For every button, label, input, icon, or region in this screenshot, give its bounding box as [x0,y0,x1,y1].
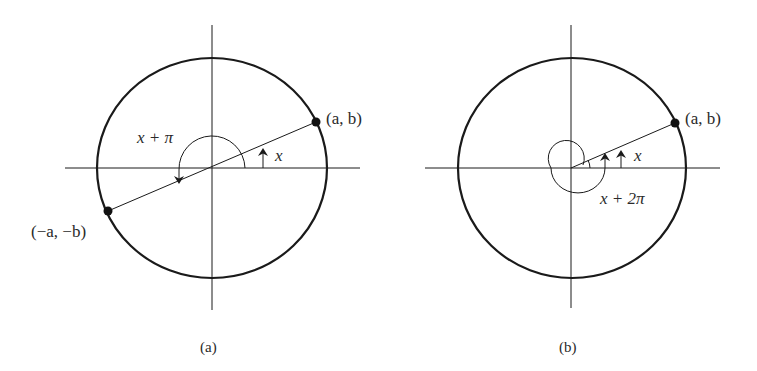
point-ab-a [312,118,321,127]
caption-a: (a) [200,339,217,356]
radius-line-b [571,123,675,168]
angle-x-small-arc-b [588,160,590,168]
label-neg-ab-a: (−a, −b) [31,222,86,241]
panel-a: (a, b) (−a, −b) x x + π (a) [31,25,362,356]
label-angle-x-a: x [274,146,283,165]
point-neg-ab-a [104,207,113,216]
label-angle-x-plus-2pi-b: x + 2π [599,189,645,208]
unit-circle-figure: (a, b) (−a, −b) x x + π (a) (a, b) x x +… [0,0,757,371]
caption-b: (b) [559,339,577,356]
label-ab-b: (a, b) [685,109,721,128]
angle-x-plus-2pi-arc-b [548,140,605,192]
label-ab-a: (a, b) [326,109,362,128]
label-angle-x-b: x [633,146,642,165]
label-angle-x-plus-pi-a: x + π [136,128,174,147]
point-ab-b [671,119,680,128]
panel-b: (a, b) x x + 2π (b) [425,25,721,356]
